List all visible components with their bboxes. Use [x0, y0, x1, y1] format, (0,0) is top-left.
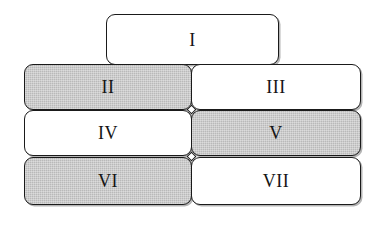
diagram-node-v[interactable]: V	[191, 110, 361, 156]
node-label-vi: VI	[98, 172, 118, 190]
node-label-ii: II	[102, 78, 115, 96]
node-label-vii: VII	[263, 172, 290, 190]
node-label-iv: IV	[98, 124, 118, 142]
diagram-node-iv[interactable]: IV	[24, 110, 192, 156]
diagram-node-iii[interactable]: III	[191, 64, 361, 110]
block-diagram: I II III IV V VI VII	[0, 0, 384, 226]
diagram-node-vi[interactable]: VI	[24, 157, 192, 205]
node-label-v: V	[269, 124, 283, 142]
node-label-iii: III	[266, 78, 285, 96]
diagram-node-i[interactable]: I	[106, 14, 279, 65]
node-label-i: I	[189, 31, 196, 49]
diagram-node-vii[interactable]: VII	[191, 157, 361, 205]
diagram-node-ii[interactable]: II	[24, 64, 192, 110]
